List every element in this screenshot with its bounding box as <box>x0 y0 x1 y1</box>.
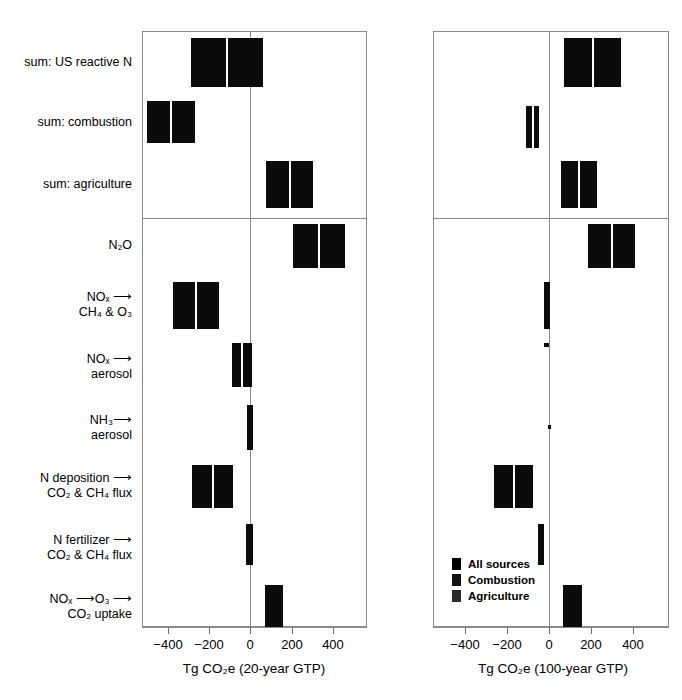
category-label-nox-o3-co2-uptake: NOₓ ⟶O₃ ⟶ CO₂ uptake <box>49 592 132 622</box>
category-labels: sum: US reactive N sum: combustion sum: … <box>0 0 136 700</box>
bar-left-sum-us-reactive-n <box>191 38 263 87</box>
bar-right-n-fertilizer <box>538 524 544 565</box>
bar-right-nox-aerosol <box>544 343 549 347</box>
legend-item-all-sources: All sources <box>452 556 535 572</box>
x-axis-title-left: Tg CO₂e (20-year GTP) <box>104 661 404 676</box>
legend-swatch-icon-all-sources <box>452 558 461 570</box>
bar-left-nh3-aerosol <box>247 405 253 450</box>
legend-swatch-icon-combustion <box>452 574 461 586</box>
legend-label-agriculture: Agriculture <box>468 590 529 602</box>
x-tick-right-1 <box>507 628 508 634</box>
label-line-2: aerosol <box>90 428 132 443</box>
bar-left-nox-ch4-o3 <box>173 282 219 329</box>
x-tick-right-4 <box>633 628 634 634</box>
label-line-1: sum: combustion <box>38 115 132 129</box>
category-label-sum-combustion: sum: combustion <box>38 115 132 130</box>
bar-left-nox-o3-co2-uptake <box>265 585 283 627</box>
label-line-1: NOₓ ⟶ <box>79 290 132 305</box>
label-line-2: CH₄ & O₃ <box>79 305 132 320</box>
bar-right-n-deposition <box>494 465 533 508</box>
label-line-1: NH₃⟶ <box>90 413 132 428</box>
category-label-sum-us-reactive-n: sum: US reactive N <box>24 55 132 70</box>
bar-right-sum-combustion <box>526 106 539 148</box>
bar-right-sum-us-reactive-n <box>564 38 621 87</box>
category-label-nox-ch4-o3: NOₓ ⟶ CH₄ & O₃ <box>79 290 132 320</box>
x-tick-left-4 <box>333 628 334 634</box>
x-tick-left-3 <box>292 628 293 634</box>
bar-left-sum-combustion <box>147 101 195 143</box>
legend-label-all-sources: All sources <box>468 558 530 570</box>
bar-left-n-deposition <box>192 465 233 508</box>
bar-left-nox-aerosol <box>232 343 252 387</box>
x-tick-left-0 <box>168 628 169 634</box>
category-label-n-fertilizer: N fertilizer ⟶ CO₂ & CH₄ flux <box>47 533 132 563</box>
bar-left-n-fertilizer <box>246 524 253 565</box>
label-line-2: CO₂ & CH₄ flux <box>47 548 132 563</box>
label-line-1: sum: agriculture <box>43 177 132 191</box>
x-tick-right-2 <box>549 628 550 634</box>
category-label-sum-agriculture: sum: agriculture <box>43 177 132 192</box>
bar-right-n2o <box>588 224 635 268</box>
label-line-1: N₂O <box>108 238 132 252</box>
legend-label-combustion: Combustion <box>468 574 535 586</box>
figure-root: sum: US reactive N sum: combustion sum: … <box>0 0 682 700</box>
bar-left-n2o <box>293 224 345 268</box>
bar-left-sum-agriculture <box>266 161 313 208</box>
panel-right-100yr <box>433 31 669 627</box>
section-divider-right <box>433 218 669 219</box>
bar-right-nox-ch4-o3 <box>544 282 550 329</box>
label-line-1: N fertilizer ⟶ <box>47 533 132 548</box>
category-label-n-deposition: N deposition ⟶ CO₂ & CH₄ flux <box>40 471 132 501</box>
label-line-2: CO₂ & CH₄ flux <box>40 486 132 501</box>
section-divider-left <box>142 218 367 219</box>
legend-swatch-icon-agriculture <box>452 590 461 602</box>
legend-item-combustion: Combustion <box>452 572 535 588</box>
x-tick-left-2 <box>250 628 251 634</box>
zero-line-right <box>549 31 550 627</box>
label-line-2: CO₂ uptake <box>49 607 132 622</box>
bar-right-nox-o3-co2-uptake <box>563 585 582 627</box>
x-tick-right-0 <box>465 628 466 634</box>
legend-item-agriculture: Agriculture <box>452 588 535 604</box>
x-tick-left-1 <box>209 628 210 634</box>
label-line-1: N deposition ⟶ <box>40 471 132 486</box>
x-ticklabel-right-4: 400 <box>603 637 663 652</box>
label-line-1: sum: US reactive N <box>24 55 132 69</box>
label-line-1: NOₓ ⟶ <box>87 352 132 367</box>
category-label-nh3-aerosol: NH₃⟶ aerosol <box>90 413 132 443</box>
x-ticklabel-left-4: 400 <box>303 637 363 652</box>
label-line-2: aerosol <box>87 367 132 382</box>
category-label-n2o: N₂O <box>108 238 132 253</box>
category-label-nox-aerosol: NOₓ ⟶ aerosol <box>87 352 132 382</box>
x-axis-title-right: Tg CO₂e (100-year GTP) <box>403 661 682 676</box>
x-tick-right-3 <box>591 628 592 634</box>
bar-right-nh3-aerosol <box>548 425 551 429</box>
bar-right-sum-agriculture <box>561 161 597 208</box>
label-line-1: NOₓ ⟶O₃ ⟶ <box>49 592 132 607</box>
legend: All sources Combustion Agriculture <box>452 556 535 604</box>
